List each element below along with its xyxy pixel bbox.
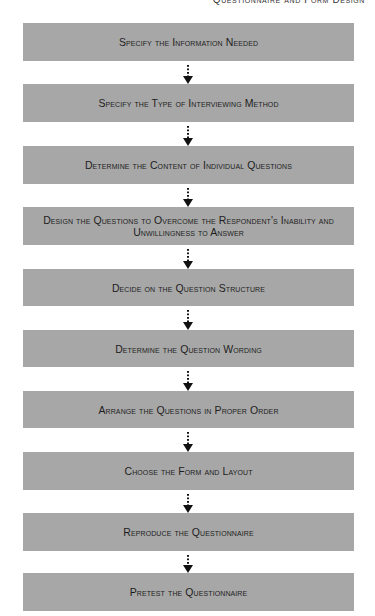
flow-step-3: Determine the Content of Individual Ques… [23,146,354,184]
flow-step-6: Determine the Question Wording [23,330,354,367]
arrow-down-icon [183,186,193,207]
flow-step-4: Design the Questions to Overcome the Res… [23,207,354,245]
flow-step-9: Reproduce the Questionnaire [23,513,354,551]
flow-step-1: Specify the Information Needed [23,23,354,61]
arrow-down-icon [183,124,193,146]
arrow-down-icon [183,63,193,84]
flow-step-2: Specify the Type of Interviewing Method [23,84,354,122]
flow-step-10: Pretest the Questionnaire [23,573,354,611]
arrow-down-icon [183,430,193,452]
flow-step-8: Choose the Form and Layout [23,452,354,490]
arrow-down-icon [183,369,193,391]
arrow-down-icon [183,553,193,573]
arrow-down-icon [183,247,193,269]
arrow-down-icon [183,308,193,330]
questionnaire-design-flowchart: Specify the Information Needed Specify t… [0,0,375,616]
flow-step-5: Decide on the Question Structure [23,269,354,306]
flow-step-7: Arrange the Questions in Proper Order [23,391,354,428]
arrow-down-icon [183,492,193,513]
